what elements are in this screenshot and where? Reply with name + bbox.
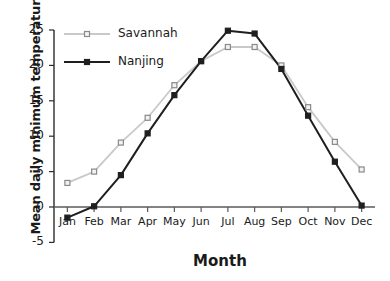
- y-tick-label: 15: [18, 93, 44, 107]
- legend-marker-savannah: [85, 32, 90, 37]
- data-point-nanjing-Sep: [279, 66, 284, 71]
- data-point-nanjing-Nov: [332, 159, 337, 164]
- y-tick-label: 20: [18, 57, 44, 71]
- data-point-savannah-Oct: [306, 105, 311, 110]
- data-point-savannah-Aug: [252, 44, 257, 49]
- y-tick-label: 25: [18, 22, 44, 36]
- data-point-savannah-May: [172, 83, 177, 88]
- data-point-nanjing-Feb: [92, 204, 97, 209]
- data-point-savannah-Jan: [65, 180, 70, 185]
- y-tick-label: -5: [18, 234, 44, 248]
- temperature-line-chart: Mean daily minimum temperature (ºC) Mont…: [0, 0, 390, 281]
- legend-label-savannah: Savannah: [118, 26, 178, 40]
- data-point-savannah-Jul: [225, 44, 230, 49]
- data-point-nanjing-Jun: [199, 59, 204, 64]
- data-point-nanjing-Dec: [359, 203, 364, 208]
- data-point-nanjing-Oct: [306, 113, 311, 118]
- data-point-nanjing-May: [172, 93, 177, 98]
- series-line-savannah: [67, 47, 361, 183]
- legend-label-nanjing: Nanjing: [118, 54, 164, 68]
- data-point-nanjing-Mar: [118, 173, 123, 178]
- y-tick-label: 5: [18, 164, 44, 178]
- legend-marker-nanjing: [85, 60, 90, 65]
- y-tick-label: 0: [18, 199, 44, 213]
- data-point-savannah-Nov: [332, 139, 337, 144]
- data-point-nanjing-Jul: [225, 28, 230, 33]
- data-point-savannah-Feb: [92, 169, 97, 174]
- plot-area: [0, 0, 390, 281]
- data-point-nanjing-Aug: [252, 31, 257, 36]
- data-point-nanjing-Apr: [145, 131, 150, 136]
- x-tick-label-dec: Dec: [345, 215, 379, 228]
- y-tick-label: 10: [18, 128, 44, 142]
- series-line-nanjing: [67, 31, 361, 218]
- data-point-savannah-Apr: [145, 115, 150, 120]
- data-point-savannah-Dec: [359, 167, 364, 172]
- data-point-savannah-Mar: [118, 140, 123, 145]
